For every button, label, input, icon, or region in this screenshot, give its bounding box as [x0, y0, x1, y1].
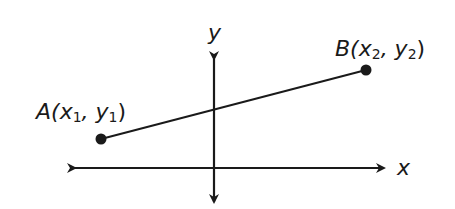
- x-axis-label: x: [396, 155, 411, 180]
- point-a: [96, 134, 107, 145]
- segment-ab: [101, 70, 366, 139]
- coordinate-diagram: y x A(x1, y1) B(x2, y2): [0, 0, 455, 209]
- point-b-label: B(x2, y2): [335, 36, 425, 62]
- point-a-label: A(x1, y1): [34, 99, 126, 125]
- diagram-canvas: y x A(x1, y1) B(x2, y2): [0, 0, 455, 209]
- point-b: [361, 65, 372, 76]
- y-axis-label: y: [207, 20, 222, 45]
